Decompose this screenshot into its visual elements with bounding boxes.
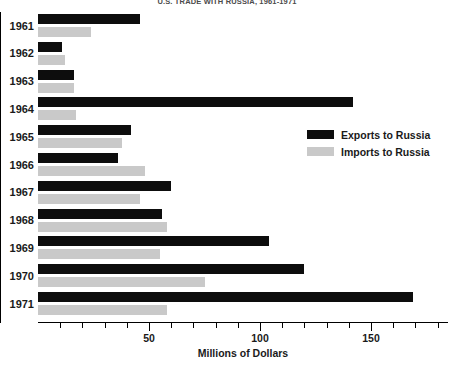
x-tick-major (260, 323, 261, 331)
legend-item-imports: Imports to Russia (307, 144, 447, 159)
x-axis-title: Millions of Dollars (38, 347, 448, 359)
bar-imports (38, 249, 160, 259)
x-tick-minor (127, 323, 128, 328)
y-axis-label-1964: 1964 (0, 103, 34, 115)
y-axis-label-1961: 1961 (0, 20, 34, 32)
x-tick-major (371, 323, 372, 331)
chart-legend: Exports to Russia Imports to Russia (307, 127, 447, 161)
bar-exports (38, 70, 74, 80)
bar-exports (38, 97, 353, 107)
bar-imports (38, 194, 140, 204)
x-tick-minor (282, 323, 283, 328)
y-axis-label-1970: 1970 (0, 270, 34, 282)
bar-imports (38, 27, 91, 37)
y-axis-label-1963: 1963 (0, 75, 34, 87)
x-tick-label: 100 (251, 332, 269, 344)
bar-exports (38, 153, 118, 163)
x-tick-minor (415, 323, 416, 328)
legend-swatch-exports-icon (307, 130, 334, 139)
bar-imports (38, 305, 167, 315)
chart-title: U.S. TRADE WITH RUSSIA, 1961-1971 (0, 0, 454, 6)
legend-swatch-imports-icon (307, 147, 334, 156)
y-axis-label-1971: 1971 (0, 298, 34, 310)
y-axis-label-1962: 1962 (0, 47, 34, 59)
x-tick-minor (105, 323, 106, 328)
bar-imports (38, 55, 65, 65)
x-tick-minor (327, 323, 328, 328)
bar-imports (38, 166, 145, 176)
x-tick-minor (216, 323, 217, 328)
bar-exports (38, 181, 171, 191)
x-tick-minor (60, 323, 61, 328)
x-tick-minor (349, 323, 350, 328)
bar-exports (38, 236, 269, 246)
bar-imports (38, 222, 167, 232)
bar-exports (38, 292, 413, 302)
bar-exports (38, 209, 162, 219)
legend-item-exports: Exports to Russia (307, 127, 447, 142)
x-axis-line (38, 322, 448, 323)
y-axis-label-1968: 1968 (0, 214, 34, 226)
bar-imports (38, 138, 122, 148)
bar-exports (38, 14, 140, 24)
x-tick-label: 150 (362, 332, 380, 344)
x-tick-major (149, 323, 150, 331)
x-tick-minor (193, 323, 194, 328)
x-tick-minor (304, 323, 305, 328)
legend-label-imports: Imports to Russia (341, 146, 430, 158)
bar-imports (38, 110, 76, 120)
bar-imports (38, 277, 205, 287)
x-tick-minor (82, 323, 83, 328)
x-tick-minor (393, 323, 394, 328)
x-tick-minor (171, 323, 172, 328)
bar-chart: U.S. TRADE WITH RUSSIA, 1961-1971 501001… (0, 0, 454, 365)
y-axis-label-1967: 1967 (0, 186, 34, 198)
x-tick-label: 50 (143, 332, 155, 344)
x-tick-minor (238, 323, 239, 328)
bar-exports (38, 125, 131, 135)
y-axis-label-1965: 1965 (0, 131, 34, 143)
y-axis-label-1966: 1966 (0, 159, 34, 171)
legend-label-exports: Exports to Russia (341, 129, 430, 141)
bar-exports (38, 42, 62, 52)
bar-exports (38, 264, 304, 274)
x-tick-minor (438, 323, 439, 328)
bar-imports (38, 83, 74, 93)
y-axis-label-1969: 1969 (0, 242, 34, 254)
